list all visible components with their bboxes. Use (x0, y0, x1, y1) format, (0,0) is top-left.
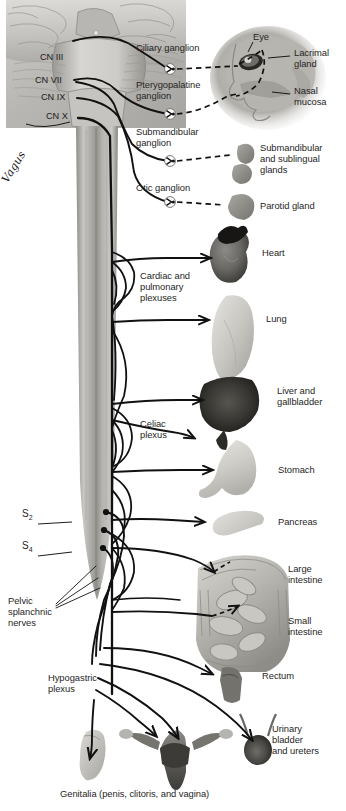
label-pelvic-splanchnic-nerves: Pelvic splanchnic nerves (8, 595, 52, 628)
lung-image (212, 295, 254, 378)
fiber-to-salivary (177, 155, 230, 161)
intestines-image (196, 555, 290, 672)
label-lung: Lung (266, 313, 287, 324)
label-otic-ganglion: Otic ganglion (136, 182, 190, 193)
label-stomach: Stomach (278, 464, 315, 475)
pancreas-image (213, 511, 264, 536)
brainstem-image (6, 0, 186, 129)
submandibular-sublingual-glands-image (232, 144, 254, 184)
uterus-image (119, 729, 233, 790)
figure-caption: Genitalia (penis, clitoris, and vagina) (60, 788, 209, 799)
branch-to-lung (112, 320, 208, 322)
label-cardiopulmonary-plexuses: Cardiac and pulmonary plexuses (140, 270, 190, 303)
label-spinal-segment-s2: S2 (22, 508, 32, 523)
branch-to-liver (112, 400, 202, 404)
branch-to-rectum (104, 648, 212, 674)
label-spinal-segment-s4: S4 (22, 540, 32, 555)
label-hypogastric-plexus: Hypogastric plexus (48, 672, 97, 694)
branch-to-stomach (112, 470, 212, 472)
label-pterygopalatine-ganglion: Pterygopalatine ganglion (136, 79, 200, 101)
label-submandibular-ganglion: Submandibular ganglion (136, 126, 198, 148)
label-pancreas: Pancreas (278, 516, 317, 527)
label-cn-ix: CN IX (41, 92, 65, 103)
label-nasal-mucosa: Nasal mucosa (294, 85, 327, 107)
label-rectum: Rectum (262, 670, 294, 681)
label-cn-x: CN X (46, 111, 68, 122)
label-small-intestine: Small intestine (288, 615, 322, 637)
stomach-image (199, 440, 256, 498)
label-eye: Eye (253, 31, 269, 42)
rectum-image (220, 667, 242, 703)
label-urinary-bladder-ureters: Urinary bladder and ureters (272, 723, 319, 756)
label-lacrimal-gland: Lacrimal gland (294, 47, 329, 69)
label-submandibular-sublingual-glands: Submandibular and sublingual glands (260, 142, 322, 175)
label-heart: Heart (262, 247, 285, 258)
fiber-to-parotid (177, 202, 224, 205)
parasympathetic-diagram: CN III CN VII CN IX CN X Vagus Ciliary g… (0, 0, 346, 811)
label-large-intestine: Large intestine (288, 563, 322, 585)
urinary-bladder-image (240, 714, 276, 765)
label-celiac-plexus: Celiac plexus (140, 418, 167, 440)
parotid-gland-image (228, 194, 254, 220)
branch-to-pancreas (112, 519, 204, 522)
label-cn-iii: CN III (40, 52, 63, 63)
branch-to-uterus (98, 678, 178, 738)
label-ciliary-ganglion: Ciliary ganglion (136, 42, 199, 53)
heart-image (210, 226, 249, 283)
label-liver-gallbladder: Liver and gallbladder (277, 385, 322, 407)
label-parotid-gland: Parotid gland (260, 200, 315, 211)
liver-gallbladder-image (199, 377, 259, 450)
label-cn-vii: CN VII (35, 75, 62, 86)
